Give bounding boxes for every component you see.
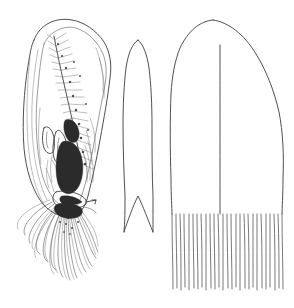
plate-background — [0, 0, 294, 308]
plate-canvas — [0, 0, 294, 308]
illustration-plate — [0, 0, 294, 308]
